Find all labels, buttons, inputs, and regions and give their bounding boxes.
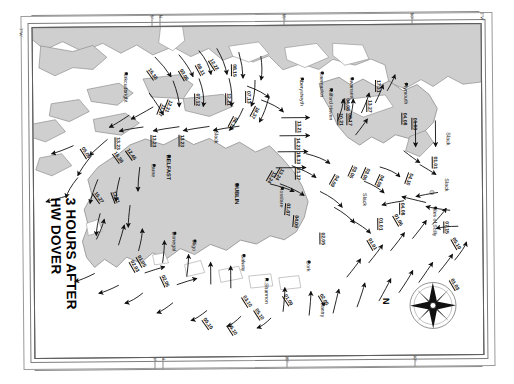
tidal-rate-label: 02.05 — [319, 232, 326, 245]
tidal-rate-label: 07.12 — [194, 93, 201, 106]
slack-label-scilly: Slack — [444, 178, 450, 191]
title-line-1: 3 HOURS AFTER — [63, 198, 79, 310]
graticule-tick-label-top-1: N — [158, 15, 163, 18]
graticule-tick-label-top-0: 5° — [149, 15, 154, 19]
graticule-tick-label-top-4: 3°W — [479, 12, 484, 21]
tidal-rate-label: 01.03 — [411, 118, 418, 131]
place-label: Sligo — [191, 240, 197, 252]
tidal-rate-label: 07.13 — [245, 91, 252, 104]
page-title: 3 HOURS AFTER HW DOVER — [48, 198, 79, 310]
place-label: DUBLIN — [234, 183, 240, 204]
place-label: Caernarfon — [319, 71, 325, 97]
tidal-rate-label: 13.21 — [295, 121, 302, 134]
tidal-rate-label: 01.01 — [432, 156, 439, 169]
title-line-2: HW DOVER — [48, 198, 64, 310]
place-label: Aberystwyth — [299, 78, 305, 106]
tidal-stream-atlas-page: 5° N 55° 50° 3°W 5° N 55° 50° 7°W — [0, 0, 514, 384]
slack-label-sw-approaches: Slack — [445, 132, 451, 145]
place-label: Milford Haven — [328, 88, 334, 120]
place-label: Donegal — [171, 232, 177, 251]
tidal-rate-label: 12.21 — [225, 93, 232, 106]
graticule-tick-label-top-3: 50° — [409, 13, 414, 20]
place-label: R.Shannon — [264, 278, 270, 304]
place-label: BELFAST — [166, 155, 172, 181]
tidal-rate-label: 04.08 — [401, 113, 408, 126]
slack-label-irish-sea: Slack — [213, 130, 219, 143]
tidal-rate-label: 13.23 — [115, 137, 122, 150]
tidal-rate-label: 18.33 — [295, 152, 302, 165]
tidal-rate-label: 14.23 — [295, 138, 302, 151]
tidal-rate-label: 21.37 — [295, 168, 302, 181]
graticule-label-left: 7°W — [19, 28, 24, 37]
tidal-rate-label: 01.01 — [377, 218, 384, 231]
scanned-page: 5° N 55° 50° 3°W 5° N 55° 50° 7°W — [0, 0, 514, 384]
slack-label-celtic-sea: Slack — [362, 193, 368, 206]
place-label: Cork — [306, 261, 312, 272]
tidal-rate-label: 01.07 — [284, 203, 292, 216]
tidal-rate-label: 08.17 — [346, 113, 353, 126]
tidal-rate-label: 08.15 — [231, 64, 238, 77]
tidal-rate-label: 10.21 — [337, 113, 344, 126]
graticule-tick-label-top-2: 55° — [281, 14, 286, 21]
tidal-rate-label: 07.15 — [443, 221, 450, 234]
tidal-rate-label: 04.09 — [292, 215, 300, 228]
tidal-rate-label: 13.27 — [366, 100, 373, 113]
tidal-rate-label: 13.23 — [178, 135, 185, 148]
compass-rose: N — [407, 279, 459, 331]
compass-north-label: N — [381, 298, 391, 305]
place-label: Larne — [151, 164, 157, 177]
tidal-rate-label: 04.08 — [344, 98, 351, 111]
place-label: Galway — [241, 254, 247, 271]
place-label: Isles of Scilly — [432, 206, 438, 236]
tidal-rate-label: 13.23 — [150, 135, 157, 148]
place-label: Plymouth — [403, 83, 409, 105]
place-label: Kirkcudbright — [123, 72, 129, 102]
place-label: Swansea — [349, 77, 355, 98]
map-canvas: Slack Slack Slack Slack 3 HOURS AFTER HW… — [32, 23, 485, 359]
tidal-rate-label: 04.08 — [399, 203, 406, 216]
tidal-rate-label: 17.31 — [375, 80, 382, 93]
